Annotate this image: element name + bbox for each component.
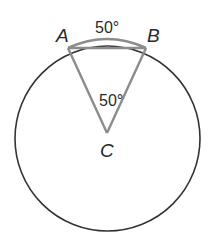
point-b-label: B xyxy=(147,25,160,46)
radius-ca xyxy=(68,48,107,133)
central-angle-label: 50° xyxy=(99,92,123,109)
circle-diagram: A B C 50° 50° xyxy=(0,0,217,250)
arc-measure-label: 50° xyxy=(95,19,119,36)
circle xyxy=(15,46,200,231)
point-a-label: A xyxy=(55,25,69,46)
point-c-label: C xyxy=(100,140,114,161)
radius-cb xyxy=(107,48,146,133)
